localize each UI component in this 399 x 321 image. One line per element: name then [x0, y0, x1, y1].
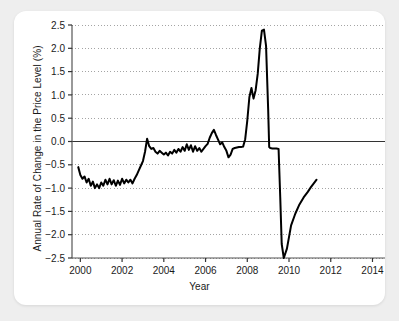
svg-text:0.0: 0.0 [51, 136, 65, 147]
svg-text:2.5: 2.5 [51, 20, 65, 31]
svg-text:2014: 2014 [361, 265, 384, 276]
svg-text:1.0: 1.0 [51, 90, 65, 101]
chart-card: Annual Rate of Change in the Price Level… [14, 11, 385, 305]
svg-text:2.0: 2.0 [51, 43, 65, 54]
svg-text:1.5: 1.5 [51, 66, 65, 77]
chart-figure: Annual Rate of Change in the Price Level… [14, 11, 385, 305]
svg-text:2010: 2010 [278, 265, 301, 276]
svg-text:2012: 2012 [320, 265, 343, 276]
svg-text:−2.0: −2.0 [45, 229, 65, 240]
x-tick-group: 20002002200420062008201020122014 [69, 258, 384, 276]
data-series-line [78, 30, 316, 258]
svg-text:−0.5: −0.5 [45, 159, 65, 170]
svg-text:2008: 2008 [236, 265, 259, 276]
y-axis-title: Annual Rate of Change in the Price Level… [32, 24, 43, 274]
svg-text:−2.5: −2.5 [45, 253, 65, 264]
svg-text:2002: 2002 [111, 265, 134, 276]
svg-text:2006: 2006 [194, 265, 217, 276]
svg-text:−1.0: −1.0 [45, 183, 65, 194]
line-chart-plot: −2.5−2.0−1.5−1.0−0.50.00.51.01.52.02.5 2… [14, 11, 385, 305]
svg-text:−1.5: −1.5 [45, 206, 65, 217]
svg-text:2004: 2004 [153, 265, 176, 276]
y-tick-group: −2.5−2.0−1.5−1.0−0.50.00.51.01.52.02.5 [45, 20, 72, 264]
x-axis-title: Year [14, 281, 385, 292]
svg-text:2000: 2000 [69, 265, 92, 276]
svg-text:0.5: 0.5 [51, 113, 65, 124]
